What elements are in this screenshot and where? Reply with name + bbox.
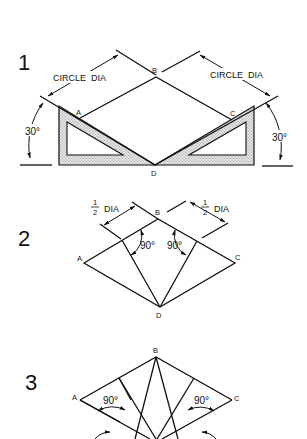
rhombus-top-edges xyxy=(80,77,232,120)
fraction-numerator: 1 xyxy=(203,198,207,207)
left-top-extension xyxy=(116,50,156,75)
angle-label-left-30: 30° xyxy=(25,126,40,137)
fraction-numerator: 1 xyxy=(93,198,97,207)
fraction-denominator: 2 xyxy=(93,208,97,217)
angle-label-right-90: 90° xyxy=(167,240,182,251)
figure-1: 1 CIRCLE DIA CIRCLE DIA xyxy=(18,50,294,178)
step-number-2: 2 xyxy=(18,226,30,251)
point-b-label: B xyxy=(152,66,157,75)
figure-3: 3 90° 90° B A C xyxy=(25,346,240,439)
angle-label-left-90: 90° xyxy=(103,395,118,406)
half-dia-label-left: 1 2 DIA xyxy=(91,198,119,217)
angle-label-left-90: 90° xyxy=(140,240,155,251)
dia-text: DIA xyxy=(104,204,119,214)
right-top-extension xyxy=(162,51,200,72)
step-number-3: 3 xyxy=(25,370,37,395)
rhombus-top-edges xyxy=(80,357,232,400)
right-ext-top xyxy=(167,201,186,212)
fraction-denominator: 2 xyxy=(203,208,207,217)
left-lower-arc xyxy=(95,432,110,439)
right-lower-arc xyxy=(202,432,216,439)
isometric-circle-construction-diagram: 1 CIRCLE DIA CIRCLE DIA xyxy=(0,0,307,439)
circle-dia-label-left: CIRCLE DIA xyxy=(53,73,106,83)
point-c-label: C xyxy=(230,109,236,118)
left-90-degree-arc xyxy=(98,407,125,411)
point-a-label: A xyxy=(76,108,81,117)
angle-label-right-30: 30° xyxy=(272,132,287,143)
line-b-to-right-bottom xyxy=(156,357,178,439)
figure-2: 2 1 2 DIA 1 2 DIA 90° 90° B xyxy=(18,198,241,320)
circle-dia-label-right: CIRCLE DIA xyxy=(210,70,263,80)
point-a-label: A xyxy=(77,254,82,263)
point-c-label: C xyxy=(234,394,240,403)
dia-text: DIA xyxy=(214,204,229,214)
point-b-label: B xyxy=(155,208,160,217)
point-d-label: D xyxy=(156,311,162,320)
point-b-label: B xyxy=(153,346,158,355)
right-90-degree-arc xyxy=(188,407,214,411)
step-number-1: 1 xyxy=(18,50,30,75)
left-ext-bottom xyxy=(100,224,121,239)
line-b-to-left-bottom xyxy=(135,357,156,439)
point-a-label: A xyxy=(72,393,77,402)
half-dia-label-right: 1 2 DIA xyxy=(201,198,229,217)
right-ext-bottom xyxy=(202,223,228,238)
point-c-label: C xyxy=(235,253,241,262)
angle-label-right-90: 90° xyxy=(194,395,209,406)
left-perp-top xyxy=(119,378,131,400)
point-d-label: D xyxy=(151,169,157,178)
